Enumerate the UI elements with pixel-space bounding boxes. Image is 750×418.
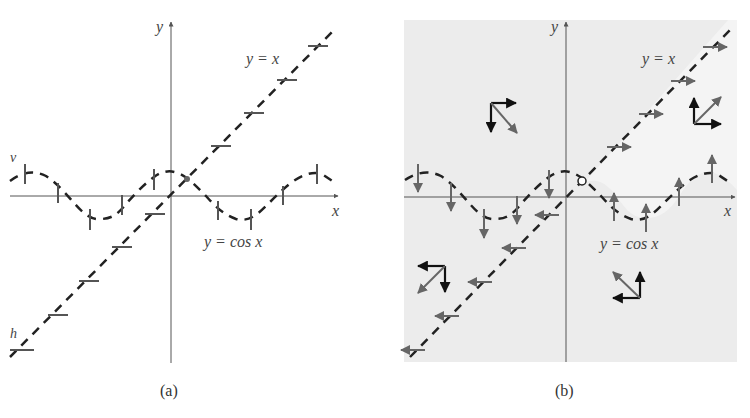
label-h: h — [10, 326, 17, 341]
label-y-equals-cos-x: y = cos x — [202, 233, 262, 251]
label-y-equals-cos-x: y = cos x — [598, 235, 658, 253]
label-y-equals-x: y = x — [244, 50, 279, 68]
panel-b: y x — [401, 18, 737, 400]
y-axis-label: y — [154, 18, 164, 36]
figure-canvas: y x y = — [0, 0, 750, 418]
x-axis-label: x — [331, 202, 339, 219]
equilibrium-point — [184, 176, 190, 182]
y-axis-label: y — [549, 18, 559, 36]
x-axis-label: x — [723, 202, 731, 219]
equilibrium-point — [578, 177, 586, 185]
caption-a: (a) — [160, 382, 178, 400]
label-y-equals-x: y = x — [640, 50, 675, 68]
label-v: v — [10, 150, 17, 165]
panel-a: y x y = — [10, 18, 339, 400]
caption-b: (b) — [555, 382, 574, 400]
